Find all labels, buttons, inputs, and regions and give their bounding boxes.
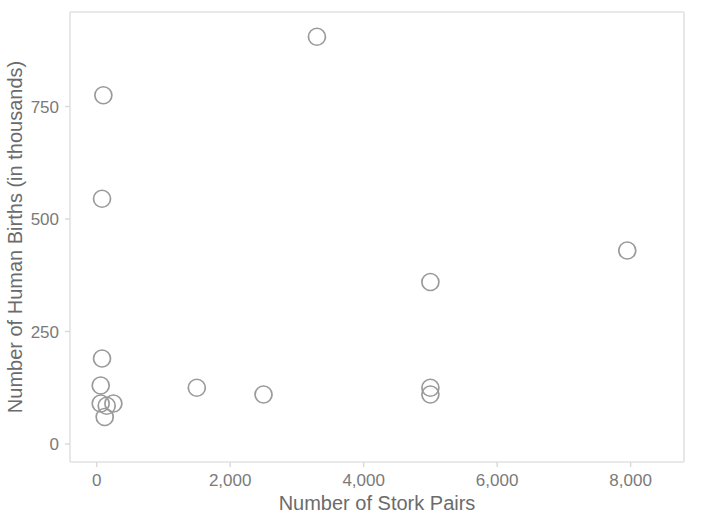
figure-background <box>0 0 704 521</box>
y-tick-label: 0 <box>50 435 59 454</box>
x-axis-title: Number of Stork Pairs <box>279 492 476 514</box>
y-tick-label: 500 <box>31 210 59 229</box>
x-tick-label: 2,000 <box>209 471 252 490</box>
scatter-plot-figure: 02,0004,0006,0008,000 0250500750 Number … <box>0 0 704 521</box>
x-tick-label: 4,000 <box>342 471 385 490</box>
chart-canvas: 02,0004,0006,0008,000 0250500750 Number … <box>0 0 704 521</box>
y-tick-label: 250 <box>31 323 59 342</box>
x-tick-label: 6,000 <box>476 471 519 490</box>
y-axis-title: Number of Human Births (in thousands) <box>4 61 26 413</box>
y-tick-label: 750 <box>31 98 59 117</box>
x-tick-label: 0 <box>92 471 101 490</box>
x-tick-label: 8,000 <box>609 471 652 490</box>
